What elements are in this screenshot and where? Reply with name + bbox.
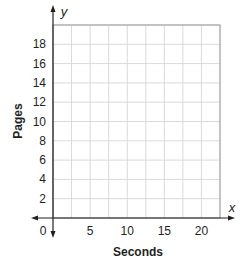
x-axis-left-arrow-icon xyxy=(31,216,38,221)
y-tick-label: 18 xyxy=(33,37,47,51)
y-tick-label: 4 xyxy=(39,172,46,186)
coordinate-grid-chart: 5101520 24681012141618 0 x y Seconds Pag… xyxy=(0,0,247,261)
x-axis-right-arrow-icon xyxy=(228,216,235,221)
y-tick-label: 14 xyxy=(33,76,47,90)
grid-lines xyxy=(53,25,220,218)
origin-label: 0 xyxy=(40,224,47,238)
y-tick-labels: 24681012141618 xyxy=(33,37,47,205)
x-tick-labels: 5101520 xyxy=(87,224,209,238)
y-axis-title: Pages xyxy=(11,103,25,139)
y-tick-label: 8 xyxy=(39,134,46,148)
x-axis-variable: x xyxy=(228,200,236,215)
x-tick-label: 5 xyxy=(87,224,94,238)
x-tick-label: 20 xyxy=(195,224,209,238)
x-tick-label: 10 xyxy=(121,224,135,238)
y-axis-down-arrow-icon xyxy=(51,231,56,238)
x-tick-label: 15 xyxy=(158,224,172,238)
x-axis-title: Seconds xyxy=(113,245,163,259)
y-axis-variable: y xyxy=(60,4,69,19)
y-axis-up-arrow-icon xyxy=(51,5,56,12)
y-tick-label: 10 xyxy=(33,115,47,129)
y-tick-label: 2 xyxy=(39,192,46,206)
y-tick-label: 16 xyxy=(33,57,47,71)
y-tick-label: 12 xyxy=(33,95,47,109)
y-tick-label: 6 xyxy=(39,153,46,167)
